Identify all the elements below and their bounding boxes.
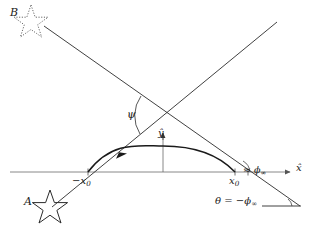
approx-phi-var: ϕ <box>254 164 260 175</box>
label-neg-x0: −x0 <box>72 176 91 187</box>
star-a-glyph <box>32 190 67 223</box>
theta-phi-subscript: ∞ <box>251 199 257 208</box>
theta-phi-var: ϕ <box>244 195 251 206</box>
label-y-axis: ŷ <box>158 128 164 138</box>
theta-symbol: θ <box>215 195 221 206</box>
diagram-svg <box>0 0 313 226</box>
approx-symbol: ≈ <box>243 164 251 175</box>
label-x-axis: x̂ <box>296 163 302 173</box>
x0-subscript: 0 <box>235 179 240 188</box>
theta-equals-sign: = <box>224 195 232 206</box>
label-psi-angle: ψ <box>127 109 136 120</box>
approx-phi-subscript: ∞ <box>261 169 267 177</box>
label-approx-phi-infinity: ≈ ϕ∞ <box>243 165 266 177</box>
label-x0: x0 <box>229 176 239 187</box>
theta-minus-sign: − <box>236 195 244 206</box>
diagram-canvas: B A ψ ŷ x̂ −x0 x0 ≈ ϕ∞ θ = −ϕ∞ <box>0 0 313 226</box>
x0-var: x <box>229 175 235 186</box>
label-star-b: B <box>10 7 18 18</box>
neg-x0-subscript: 0 <box>86 179 91 188</box>
label-theta-equation: θ = −ϕ∞ <box>215 196 257 207</box>
star-b-glyph <box>14 5 48 37</box>
label-star-a: A <box>24 196 32 207</box>
